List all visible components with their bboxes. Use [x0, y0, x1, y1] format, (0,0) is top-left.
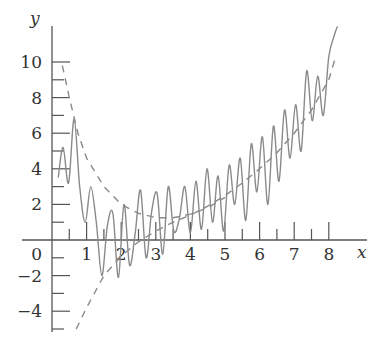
dashed-curve — [76, 57, 336, 329]
x-tick-label: 6 — [254, 244, 265, 264]
origin-label: 0 — [31, 244, 42, 264]
x-tick-label: 8 — [323, 244, 334, 264]
y-tick-label: 2 — [31, 194, 42, 214]
plot-area: −4−2246810123456780 y x — [0, 0, 389, 346]
y-axis-label: y — [29, 8, 40, 28]
dashed-curve — [62, 66, 225, 218]
y-tick-label: 8 — [31, 88, 42, 108]
x-axis-label: x — [357, 242, 367, 262]
axis-labels: y x — [29, 8, 367, 262]
y-tick-label: 4 — [31, 159, 42, 179]
x-tick-label: 3 — [150, 244, 161, 264]
curves — [58, 26, 337, 329]
chart: −4−2246810123456780 y x — [0, 0, 389, 346]
x-tick-label: 1 — [81, 244, 92, 264]
y-tick-label: 10 — [20, 52, 42, 72]
x-tick-label: 5 — [220, 244, 231, 264]
x-tick-label: 7 — [289, 244, 300, 264]
y-tick-label: −4 — [17, 301, 42, 321]
y-tick-label: 6 — [31, 123, 42, 143]
x-tick-label: 4 — [185, 244, 196, 264]
y-tick-label: −2 — [17, 266, 42, 286]
